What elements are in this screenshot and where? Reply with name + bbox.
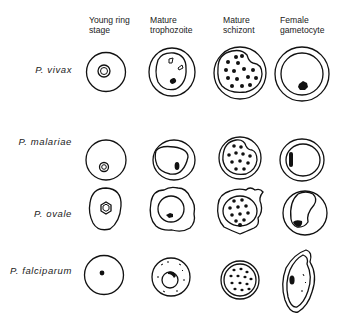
- p-ovale-mature-schizont-cell: [218, 188, 263, 234]
- p-malariae-mature-schizont-cell: [219, 137, 261, 179]
- p-ovale-mature-trophozoite-cell: [150, 187, 194, 231]
- p-vivax-female-gametocyte-cell: [275, 47, 329, 101]
- p-falciparum-female-gametocyte-cell: [283, 250, 315, 312]
- p-falciparum-young-ring-cell: [85, 256, 124, 295]
- p-vivax-mature-schizont-cell: [214, 47, 266, 99]
- parasite-illustrations: [0, 0, 349, 327]
- p-vivax-mature-trophozoite-cell: [149, 48, 195, 96]
- p-malariae-young-ring-cell: [86, 140, 126, 180]
- p-falciparum-mature-schizont-cell: [221, 261, 259, 299]
- p-malariae-female-gametocyte-cell: [280, 139, 324, 181]
- p-vivax-young-ring-cell: [87, 53, 126, 92]
- p-ovale-young-ring-cell: [89, 188, 121, 230]
- p-ovale-female-gametocyte-cell: [283, 191, 327, 235]
- p-malariae-mature-trophozoite-cell: [153, 140, 195, 180]
- p-falciparum-mature-trophozoite-cell: [152, 258, 190, 296]
